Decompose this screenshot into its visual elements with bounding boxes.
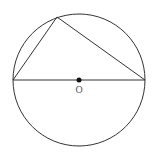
center-label: O <box>75 84 82 95</box>
chord-left-top <box>13 17 57 80</box>
chord-top-right <box>57 17 145 80</box>
center-point <box>77 78 82 83</box>
geometry-diagram: O <box>0 0 158 161</box>
